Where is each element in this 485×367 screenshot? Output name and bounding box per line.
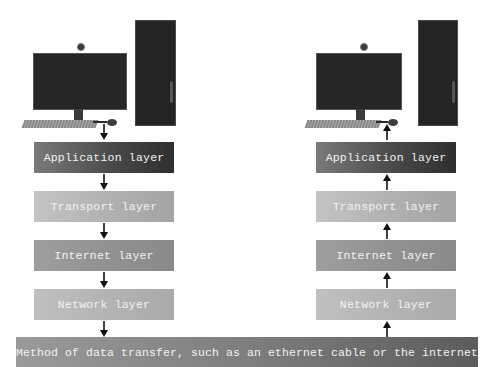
left-tower-buttons: [170, 81, 173, 103]
arrow-up-icon: [382, 272, 392, 288]
right-keyboard-icon: [305, 120, 382, 128]
left-keyboard-icon: [22, 120, 99, 128]
right-network-layer: Network layer: [316, 289, 456, 320]
arrow-up-icon: [382, 223, 392, 239]
transfer-medium-box: Method of data transfer, such as an ethe…: [16, 337, 478, 367]
left-pc-tower-icon: [135, 20, 176, 126]
arrow-up-icon: [382, 124, 392, 140]
right-pc-tower-icon: [418, 20, 458, 126]
right-transport-layer: Transport layer: [316, 191, 456, 222]
left-application-layer: Application layer: [34, 142, 174, 173]
left-monitor-icon: [33, 53, 127, 110]
arrow-down-icon: [99, 223, 109, 239]
right-tower-buttons: [452, 81, 455, 103]
left-transport-layer: Transport layer: [34, 191, 174, 222]
right-webcam-icon: [360, 43, 368, 51]
arrow-up-icon: [382, 321, 392, 337]
arrow-down-icon: [99, 124, 109, 140]
arrow-down-icon: [99, 272, 109, 288]
left-mouse-cable: [93, 121, 107, 123]
arrow-down-icon: [99, 321, 109, 337]
right-application-layer: Application layer: [316, 142, 456, 173]
left-monitor-stand: [74, 109, 83, 120]
arrow-up-icon: [382, 174, 392, 190]
right-monitor-stand: [356, 109, 365, 120]
arrow-down-icon: [99, 174, 109, 190]
right-monitor-icon: [316, 53, 402, 110]
left-network-layer: Network layer: [34, 289, 174, 320]
right-internet-layer: Internet layer: [316, 240, 456, 271]
left-webcam-icon: [77, 43, 85, 51]
left-internet-layer: Internet layer: [34, 240, 174, 271]
right-mouse-cable: [376, 121, 388, 123]
